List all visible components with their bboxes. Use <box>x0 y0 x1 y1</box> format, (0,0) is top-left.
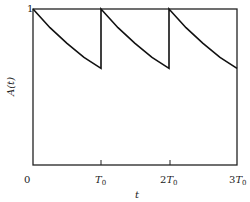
x-tick-label-2t0: 2T0 <box>160 174 178 187</box>
plot-frame <box>33 9 237 165</box>
x-tick-label-t0: T0 <box>95 174 106 187</box>
x-axis-label: t <box>135 189 140 200</box>
decay-curve <box>33 9 237 68</box>
x-tick-label-3t0: 3T0 <box>229 174 247 187</box>
y-axis-label: A(t) <box>5 77 16 97</box>
x-tick-label-0: 0 <box>24 174 30 185</box>
y-tick-1: 1 <box>27 3 33 14</box>
decay-chart: 1 0 T0 2T0 3T0 t A(t) <box>0 0 250 202</box>
